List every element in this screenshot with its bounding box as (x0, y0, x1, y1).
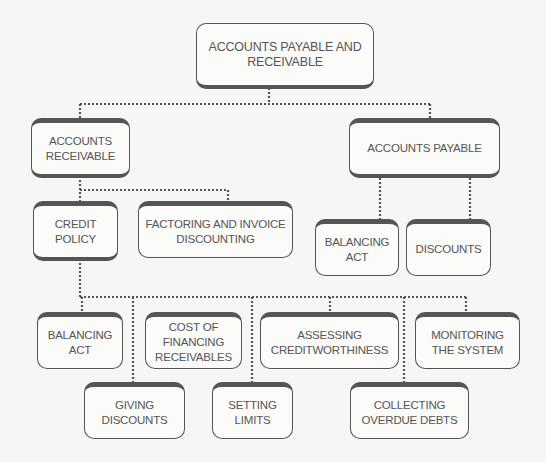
node-credit-policy: CREDIT POLICY (33, 201, 118, 261)
node-assessing-creditworthiness: ASSESSING CREDITWORTHINESS (260, 312, 399, 369)
node-collecting-overdue-debts: COLLECTING OVERDUE DEBTS (350, 382, 469, 439)
node-setting-limits: SETTING LIMITS (212, 382, 293, 439)
node-accounts-payable: ACCOUNTS PAYABLE (349, 118, 500, 178)
node-accounts-payable-and-receivable: ACCOUNTS PAYABLE AND RECEIVABLE (196, 23, 374, 89)
node-cp-balancing-act: BALANCING ACT (37, 312, 123, 369)
node-label: BALANCING ACT (320, 235, 394, 265)
node-label: ASSESSING CREDITWORTHINESS (265, 328, 394, 358)
node-label: GIVING DISCOUNTS (89, 398, 180, 428)
node-label: BALANCING ACT (42, 328, 118, 358)
node-label: ACCOUNTS PAYABLE (367, 141, 481, 156)
node-factoring-and-invoice-discounting: FACTORING AND INVOICE DISCOUNTING (138, 201, 293, 258)
node-cost-of-financing-receivables: COST OF FINANCING RECEIVABLES (145, 312, 242, 369)
node-label: MONITORING THE SYSTEM (420, 328, 515, 358)
node-ap-balancing-act: BALANCING ACT (315, 219, 399, 276)
org-chart: ACCOUNTS PAYABLE AND RECEIVABLE ACCOUNTS… (0, 0, 546, 462)
node-label: ACCOUNTS PAYABLE AND RECEIVABLE (201, 40, 369, 70)
node-monitoring-the-system: MONITORING THE SYSTEM (415, 312, 520, 369)
node-label: COST OF FINANCING RECEIVABLES (150, 320, 237, 365)
node-accounts-receivable: ACCOUNTS RECEIVABLE (31, 118, 130, 178)
node-label: CREDIT POLICY (38, 217, 113, 247)
node-label: COLLECTING OVERDUE DEBTS (355, 398, 464, 428)
node-label: SETTING LIMITS (217, 398, 288, 428)
node-label: DISCOUNTS (416, 242, 482, 257)
node-label: ACCOUNTS RECEIVABLE (36, 134, 125, 164)
node-giving-discounts: GIVING DISCOUNTS (84, 382, 185, 439)
node-label: FACTORING AND INVOICE DISCOUNTING (143, 217, 288, 247)
node-ap-discounts: DISCOUNTS (406, 219, 491, 276)
